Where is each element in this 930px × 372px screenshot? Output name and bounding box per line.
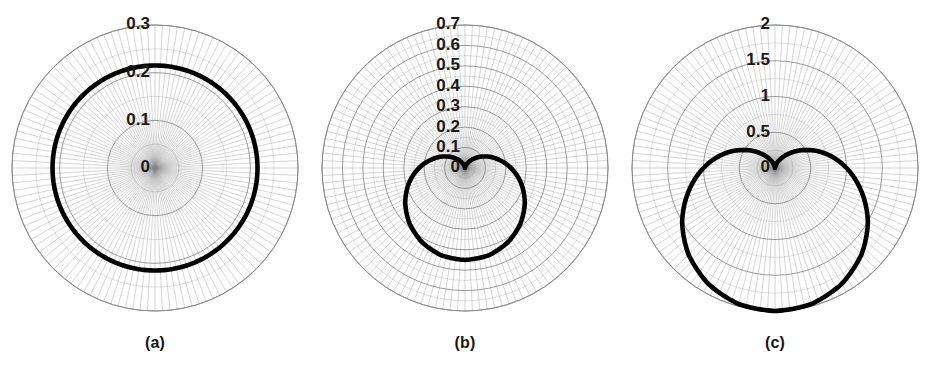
r-tick-label: 1.5 [746, 50, 770, 69]
polar-panel-b: 00.10.20.30.40.50.60.7 (b) [310, 0, 620, 372]
polar-tick-labels-a: 00.10.20.3 [126, 14, 150, 176]
r-tick-label: 0.2 [436, 117, 460, 136]
polar-panel-a: 00.10.20.3 (a) [0, 0, 310, 372]
panel-caption-a: (a) [0, 334, 310, 352]
r-tick-label: 0 [451, 157, 460, 176]
r-tick-label: 0.7 [436, 14, 460, 33]
polar-figure: 00.10.20.3 (a) 00.10.20.30.40.50.60.7 (b… [0, 0, 930, 372]
polar-grid-a [12, 25, 298, 311]
r-tick-label: 2 [761, 14, 770, 33]
r-tick-label: 0 [141, 157, 150, 176]
r-tick-label: 0.3 [126, 14, 150, 33]
panel-caption-b: (b) [310, 334, 620, 352]
r-tick-label: 0.3 [436, 96, 460, 115]
r-tick-label: 0.1 [436, 137, 460, 156]
r-tick-label: 0.2 [126, 62, 150, 81]
polar-plot-a: 00.10.20.3 [0, 0, 310, 372]
r-tick-label: 0.6 [436, 35, 460, 54]
polar-plot-c: 00.511.52 [620, 0, 930, 372]
r-tick-label: 0.1 [126, 110, 150, 129]
r-tick-label: 0 [761, 157, 770, 176]
r-tick-label: 0.5 [746, 122, 770, 141]
r-tick-label: 1 [761, 86, 770, 105]
r-tick-label: 0.4 [436, 76, 460, 95]
panel-caption-c: (c) [620, 334, 930, 352]
polar-panel-c: 00.511.52 (c) [620, 0, 930, 372]
polar-plot-b: 00.10.20.30.40.50.60.7 [310, 0, 620, 372]
r-tick-label: 0.5 [436, 55, 460, 74]
polar-tick-labels-b: 00.10.20.30.40.50.60.7 [436, 14, 460, 176]
